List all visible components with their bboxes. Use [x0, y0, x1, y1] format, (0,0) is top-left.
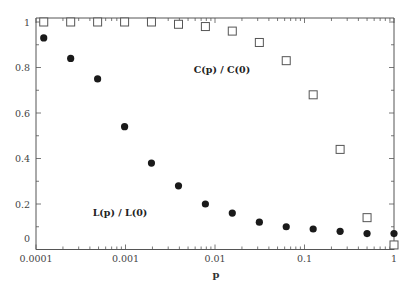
- circle-marker: [67, 55, 74, 62]
- series-label-l: L(p) / L(0): [93, 207, 148, 218]
- square-marker: [336, 145, 344, 153]
- y-tick-label: 0: [24, 233, 30, 244]
- circle-marker: [363, 230, 370, 237]
- square-marker: [147, 18, 155, 26]
- circle-marker: [175, 182, 182, 189]
- circle-marker: [229, 210, 236, 217]
- y-tick-label: 0.2: [15, 199, 30, 210]
- y-tick-label: 0.8: [15, 62, 30, 73]
- square-marker: [363, 214, 371, 222]
- x-tick-label: 0.01: [204, 253, 225, 264]
- circle-marker: [121, 123, 128, 130]
- x-tick-label: 0.0001: [19, 253, 52, 264]
- square-marker: [255, 38, 263, 46]
- x-axis-title: p: [213, 269, 220, 280]
- circle-marker: [94, 75, 101, 82]
- circle-marker: [337, 228, 344, 235]
- circle-marker: [202, 200, 209, 207]
- square-marker: [390, 241, 398, 249]
- square-marker: [121, 18, 129, 26]
- square-marker: [67, 18, 75, 26]
- square-marker: [309, 91, 317, 99]
- x-tick-label: 1: [391, 253, 397, 264]
- y-tick-label: 1: [24, 17, 30, 28]
- x-axis-ticks: 0.00010.0010.010.11: [19, 18, 397, 264]
- square-marker: [228, 27, 236, 35]
- x-tick-label: 0.1: [297, 253, 312, 264]
- circle-marker: [310, 225, 317, 232]
- y-tick-label: 0.4: [15, 153, 30, 164]
- y-axis-ticks: 00.20.40.60.81: [15, 17, 394, 250]
- square-marker: [94, 18, 102, 26]
- plot-frame: [36, 18, 394, 250]
- x-tick-label: 0.001: [112, 253, 139, 264]
- chart: 0.00010.0010.010.11 00.20.40.60.81 C(p) …: [0, 0, 413, 288]
- square-marker: [174, 20, 182, 28]
- circle-marker: [40, 34, 47, 41]
- square-marker: [282, 57, 290, 65]
- circle-marker: [283, 223, 290, 230]
- circle-marker: [390, 230, 397, 237]
- circle-marker: [256, 219, 263, 226]
- y-tick-label: 0.6: [15, 108, 30, 119]
- series-label-c: C(p) / C(0): [194, 64, 250, 75]
- square-marker: [201, 23, 209, 31]
- square-marker: [40, 18, 48, 26]
- circle-marker: [148, 159, 155, 166]
